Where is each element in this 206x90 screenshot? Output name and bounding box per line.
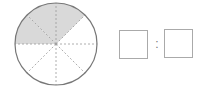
ratio-separator: :	[155, 37, 158, 51]
sector-divider	[56, 44, 85, 73]
ratio-right-box[interactable]	[165, 30, 193, 58]
ratio-left-box[interactable]	[120, 31, 148, 59]
shaded-sector	[56, 3, 85, 44]
fraction-diagram: :	[0, 0, 206, 90]
sector-divider	[27, 44, 56, 73]
fraction-circle	[15, 3, 97, 85]
